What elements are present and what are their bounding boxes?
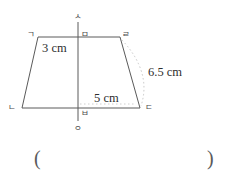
measurement-right-slant-side: 6.5 cm (148, 66, 182, 79)
geometry-figure: ㄱ ㄴ ㄷ ㄹ ㅁ ㅂ ㅅ ㅇ 3 cm 6.5 cm 5 cm ( ) (0, 0, 237, 179)
trapezoid-outline (22, 37, 140, 108)
axis-label-ieung: ㅇ (74, 124, 82, 133)
right-side-arc (122, 40, 144, 106)
vertex-label-rieul: ㄹ (122, 30, 130, 39)
vertex-label-digeut: ㄷ (145, 103, 153, 112)
vertex-label-nieun: ㄴ (8, 103, 16, 112)
vertex-label-bieup: ㅂ (81, 109, 89, 118)
vertex-label-giyeok: ㄱ (27, 30, 35, 39)
axis-label-siot: ㅅ (74, 12, 82, 21)
answer-blank-close-paren: ) (207, 148, 214, 168)
answer-blank-open-paren: ( (34, 148, 41, 168)
vertex-label-mieum: ㅁ (81, 30, 89, 39)
measurement-bottom-right-half: 5 cm (94, 92, 119, 105)
measurement-left-top-side: 3 cm (42, 42, 67, 55)
